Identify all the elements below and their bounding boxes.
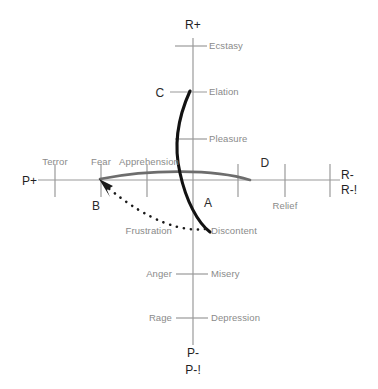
- emotion-label-discontent: Discontent: [211, 226, 257, 236]
- axis-label-r-minus: R-: [341, 170, 354, 180]
- dotted-return-arrow-path: [107, 187, 205, 230]
- axis-label-r-plus: R+: [185, 20, 201, 30]
- emotion-label-terror: Terror: [42, 157, 67, 167]
- diagram-vector-layer: [0, 0, 378, 389]
- emotion-label-ecstasy: Ecstasy: [209, 41, 243, 51]
- point-label-d: D: [261, 158, 270, 168]
- emotion-label-frustration: Frustration: [125, 226, 172, 236]
- emotion-label-apprehension: Apprehension: [119, 157, 179, 167]
- emotion-label-fear: Fear: [91, 157, 111, 167]
- emotion-label-depression: Depression: [211, 313, 260, 323]
- arousal-arc-curve: [100, 172, 250, 180]
- point-label-c: C: [156, 88, 165, 98]
- point-label-b: B: [92, 201, 100, 211]
- axes-group: [38, 38, 340, 345]
- emotion-label-relief: Relief: [273, 201, 298, 211]
- emotion-space-diagram: R+ P+ R- R-! P- P-! Ecstasy Elation Plea…: [0, 0, 378, 389]
- axis-label-p-minus-exclaim: P-!: [185, 365, 201, 375]
- point-label-a: A: [204, 198, 212, 208]
- axis-label-p-minus: P-: [187, 348, 199, 358]
- axis-label-r-minus-exclaim: R-!: [341, 185, 357, 195]
- axis-label-p-plus: P+: [22, 176, 37, 186]
- emotion-label-pleasure: Pleasure: [209, 134, 247, 144]
- emotion-label-rage: Rage: [149, 313, 172, 323]
- emotion-label-anger: Anger: [146, 269, 172, 279]
- emotion-label-elation: Elation: [209, 87, 239, 97]
- vertical-axis-ticks: [170, 46, 208, 318]
- emotion-label-misery: Misery: [211, 269, 240, 279]
